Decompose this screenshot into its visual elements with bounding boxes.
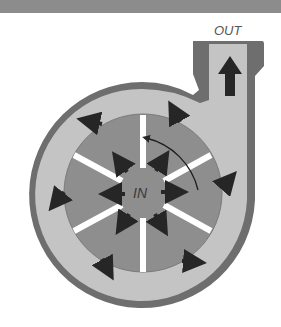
pump-diagram: OUT IN xyxy=(0,0,281,327)
inlet-label: IN xyxy=(133,185,148,201)
outlet-label: OUT xyxy=(214,23,243,38)
flow-arrow-icon xyxy=(182,261,195,262)
